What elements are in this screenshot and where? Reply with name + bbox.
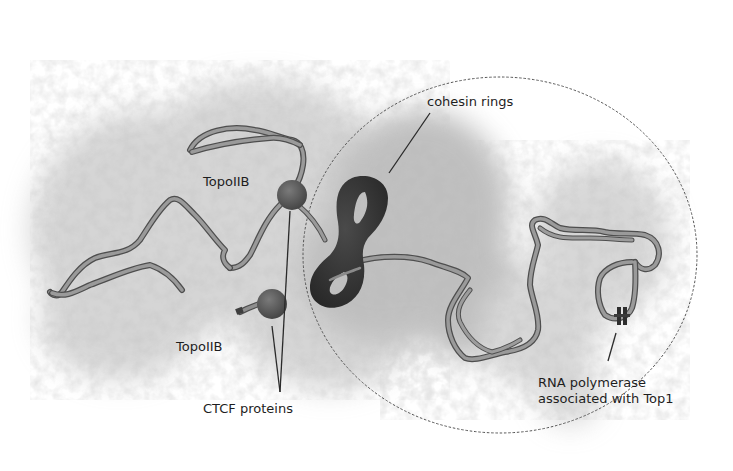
ctcf-protein-bottom (257, 289, 287, 319)
ctcf-protein-top (277, 180, 307, 210)
label-topoiib-top: TopoIIB (203, 174, 249, 190)
label-rna-polymerase: RNA polymerase associated with Top1 (538, 375, 674, 407)
label-ctcf-proteins: CTCF proteins (203, 401, 293, 417)
label-topoiib-bottom: TopoIIB (176, 339, 222, 355)
label-cohesin-rings: cohesin rings (427, 94, 513, 110)
